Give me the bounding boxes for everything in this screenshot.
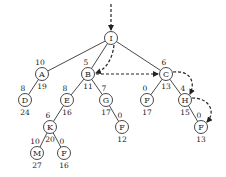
- tree-node-c: C613: [160, 58, 173, 91]
- node-label: F: [119, 123, 125, 132]
- tree-node-f: F013: [195, 111, 208, 144]
- node-bottom-value: 24: [20, 108, 30, 117]
- node-label: H: [182, 96, 189, 105]
- node-label: D: [22, 96, 28, 105]
- tree-edge: [71, 79, 84, 95]
- node-bottom-value: 17: [101, 108, 111, 117]
- node-top-value: 8: [63, 84, 68, 93]
- tree-node-f: F012: [116, 111, 129, 144]
- node-top-value: 10: [30, 137, 40, 146]
- node-label: F: [61, 149, 67, 158]
- node-label: K: [47, 123, 54, 132]
- node-bottom-value: 12: [117, 135, 127, 144]
- node-label: F: [144, 96, 150, 105]
- arrow-h-to-f: [192, 98, 211, 122]
- node-top-value: 6: [46, 111, 51, 120]
- node-bottom-value: 16: [59, 161, 69, 170]
- tree-node-f: F016: [58, 137, 71, 170]
- tree-node-h: H415: [179, 84, 192, 117]
- node-top-value: 7: [102, 84, 107, 93]
- node-label: F: [198, 123, 204, 132]
- node-top-value: 10: [35, 58, 45, 67]
- node-top-value: 4: [181, 84, 186, 93]
- arrow-i-to-b: [96, 45, 114, 73]
- node-label: B: [85, 70, 91, 79]
- node-bottom-value: 11: [83, 82, 93, 91]
- search-tree-diagram: IA1019B511C613D824E816G717F017H415K620F0…: [0, 0, 226, 177]
- node-top-value: 6: [162, 58, 167, 67]
- node-top-value: 5: [84, 58, 89, 67]
- node-bottom-value: 16: [62, 108, 72, 117]
- tree-node-g: G717: [100, 84, 113, 117]
- node-bottom-value: 15: [180, 108, 190, 117]
- node-top-value: 0: [197, 111, 202, 120]
- node-label: E: [64, 96, 70, 105]
- tree-node-a: A1019: [35, 58, 48, 91]
- node-label: A: [38, 70, 45, 79]
- node-label: I: [109, 34, 112, 43]
- tree-edge: [48, 41, 105, 71]
- search-path-arrows: [96, 4, 211, 122]
- node-label: G: [103, 96, 109, 105]
- node-top-value: 0: [143, 84, 148, 93]
- node-bottom-value: 27: [32, 161, 42, 170]
- node-label: M: [33, 149, 41, 158]
- tree-node-k: K620: [44, 111, 57, 144]
- tree-edge: [116, 42, 160, 71]
- tree-node-i: I: [105, 32, 118, 45]
- node-bottom-value: 13: [161, 82, 171, 91]
- node-top-value: 0: [60, 137, 65, 146]
- node-label: C: [163, 70, 169, 79]
- tree-node-e: E816: [61, 84, 74, 117]
- node-bottom-value: 19: [37, 82, 47, 91]
- node-top-value: 0: [118, 111, 123, 120]
- tree-node-m: M1027: [30, 137, 43, 170]
- node-bottom-value: 13: [196, 135, 206, 144]
- tree-node-b: B511: [82, 58, 95, 91]
- node-top-value: 8: [21, 84, 26, 93]
- node-bottom-value: 17: [142, 108, 152, 117]
- tree-edge: [170, 79, 181, 95]
- tree-node-f: F017: [141, 84, 154, 117]
- tree-node-d: D824: [19, 84, 32, 117]
- node-bottom-value: 20: [45, 135, 55, 144]
